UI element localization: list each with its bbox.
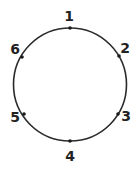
point-3 xyxy=(116,112,120,116)
point-label-5: 5 xyxy=(10,109,20,125)
point-label-1: 1 xyxy=(64,8,74,24)
point-4 xyxy=(68,139,72,143)
point-label-3: 3 xyxy=(121,108,131,124)
point-1 xyxy=(68,26,72,30)
point-5 xyxy=(22,112,26,116)
points-group xyxy=(20,26,121,143)
point-label-6: 6 xyxy=(10,41,20,57)
point-label-2: 2 xyxy=(120,40,130,56)
point-6 xyxy=(20,55,24,59)
circle-diagram: 123456 xyxy=(0,0,138,171)
point-label-4: 4 xyxy=(65,148,75,164)
main-circle xyxy=(14,28,127,141)
